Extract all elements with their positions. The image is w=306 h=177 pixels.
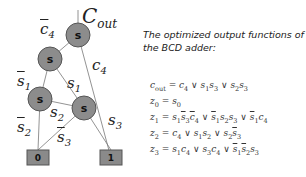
svg-text:s: s (81, 102, 88, 115)
svg-text:s: s (37, 93, 44, 106)
equation-z1: z1 = s1s3c4 ∨ s1s2s3 ∨ s1c4 (150, 109, 268, 125)
equation-z0: z0 = s0 (150, 93, 268, 109)
edge-label-s1: s1 (67, 76, 81, 94)
edge-label-s2: s2 (50, 105, 64, 123)
node-s-left-upper: s (38, 47, 62, 71)
edge-label-s3: s3 (108, 113, 122, 131)
node-s-right: s (72, 96, 96, 120)
bdd-diagram: s s s s 0 1 Cout c4 c4 s1 (0, 0, 140, 177)
root-label-cout: Cout (82, 6, 117, 30)
edge-label-c4-bar: c4 (40, 22, 55, 40)
terminal-one: 1 (100, 150, 122, 165)
node-s-left-lower: s (28, 87, 52, 111)
equations-list: cout = c4 ∨ s1s3 ∨ s2s3 z0 = s0 z1 = s1s… (150, 77, 268, 157)
svg-text:0: 0 (35, 153, 41, 163)
edge-label-s3-bar: s3 (57, 130, 71, 148)
equation-z2: z2 = c4 ∨ s1s2 ∨ s2s3 (150, 125, 268, 141)
equation-cout: cout = c4 ∨ s1s3 ∨ s2s3 (150, 77, 268, 93)
caption: The optimized output functions of the BC… (143, 28, 306, 54)
equation-z3: z3 = s1c4 ∨ s3c4 ∨ s1s2s3 (150, 141, 268, 157)
terminal-zero: 0 (27, 150, 49, 165)
edge-label-s1-bar: s1 (17, 74, 31, 92)
edge-label-s2-bar: s2 (17, 120, 31, 138)
svg-text:1: 1 (108, 153, 114, 163)
svg-text:s: s (75, 29, 82, 42)
edge-label-c4: c4 (92, 58, 107, 76)
svg-text:s: s (47, 53, 54, 66)
